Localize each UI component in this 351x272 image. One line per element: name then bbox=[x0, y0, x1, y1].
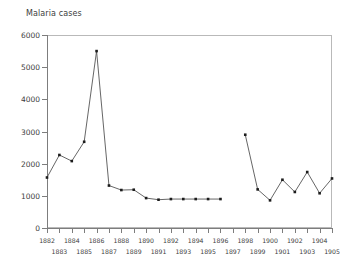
data-point bbox=[269, 199, 272, 202]
data-point bbox=[256, 188, 259, 191]
y-tick bbox=[42, 164, 47, 165]
y-tick bbox=[42, 132, 47, 133]
data-point bbox=[318, 192, 321, 195]
data-point bbox=[281, 178, 284, 181]
x-tick bbox=[258, 228, 259, 233]
x-tick-label: 1891 bbox=[151, 248, 167, 255]
data-point bbox=[294, 191, 297, 194]
data-point bbox=[70, 160, 73, 163]
x-tick bbox=[47, 228, 48, 233]
x-tick-label: 1884 bbox=[64, 237, 80, 244]
x-tick-label: 1905 bbox=[324, 248, 340, 255]
x-tick-label: 1894 bbox=[188, 237, 204, 244]
x-tick-label: 1895 bbox=[200, 248, 216, 255]
x-tick bbox=[245, 228, 246, 233]
x-tick bbox=[233, 228, 234, 233]
x-tick-label: 1902 bbox=[287, 237, 303, 244]
x-tick bbox=[97, 228, 98, 233]
x-tick-label: 1893 bbox=[175, 248, 191, 255]
y-tick bbox=[42, 67, 47, 68]
x-tick-label: 1903 bbox=[299, 248, 315, 255]
data-point bbox=[157, 198, 160, 201]
x-tick bbox=[146, 228, 147, 233]
data-point bbox=[306, 171, 309, 174]
x-tick bbox=[159, 228, 160, 233]
x-tick-label: 1904 bbox=[312, 237, 328, 244]
data-point bbox=[331, 177, 334, 180]
data-point bbox=[58, 154, 61, 157]
x-tick-label: 1901 bbox=[275, 248, 291, 255]
x-tick bbox=[183, 228, 184, 233]
x-tick-label: 1892 bbox=[163, 237, 179, 244]
data-point bbox=[132, 188, 135, 191]
x-tick-label: 1897 bbox=[225, 248, 241, 255]
x-tick-label: 1887 bbox=[101, 248, 117, 255]
x-tick-label: 1888 bbox=[113, 237, 129, 244]
x-tick-label: 1882 bbox=[39, 237, 55, 244]
data-point bbox=[83, 140, 86, 143]
x-tick bbox=[320, 228, 321, 233]
x-tick-label: 1886 bbox=[89, 237, 105, 244]
x-tick-label: 1896 bbox=[213, 237, 229, 244]
x-tick bbox=[220, 228, 221, 233]
x-tick bbox=[196, 228, 197, 233]
data-point bbox=[145, 197, 148, 200]
x-tick-label: 1900 bbox=[262, 237, 278, 244]
x-tick-label: 1899 bbox=[250, 248, 266, 255]
data-point bbox=[95, 50, 98, 53]
x-tick-label: 1890 bbox=[138, 237, 154, 244]
x-tick bbox=[332, 228, 333, 233]
series-line bbox=[47, 51, 220, 200]
data-point bbox=[219, 198, 222, 201]
data-point bbox=[244, 133, 247, 136]
x-tick-label: 1883 bbox=[52, 248, 68, 255]
x-tick bbox=[282, 228, 283, 233]
data-point bbox=[46, 176, 49, 179]
x-tick-label: 1885 bbox=[76, 248, 92, 255]
x-tick bbox=[295, 228, 296, 233]
x-tick bbox=[270, 228, 271, 233]
data-point bbox=[194, 198, 197, 201]
x-tick bbox=[109, 228, 110, 233]
x-tick bbox=[171, 228, 172, 233]
y-tick bbox=[42, 196, 47, 197]
x-tick bbox=[121, 228, 122, 233]
data-point bbox=[120, 189, 123, 192]
x-tick bbox=[72, 228, 73, 233]
x-tick bbox=[134, 228, 135, 233]
x-tick bbox=[59, 228, 60, 233]
data-point bbox=[108, 184, 111, 187]
data-point bbox=[182, 198, 185, 201]
data-point bbox=[170, 198, 173, 201]
x-tick bbox=[84, 228, 85, 233]
x-tick bbox=[307, 228, 308, 233]
y-tick bbox=[42, 99, 47, 100]
x-tick bbox=[208, 228, 209, 233]
malaria-cases-chart: Malaria cases 0100020003000400050006000 … bbox=[0, 0, 351, 272]
data-series-layer bbox=[0, 0, 351, 272]
x-tick-label: 1889 bbox=[126, 248, 142, 255]
data-point bbox=[207, 198, 210, 201]
y-tick bbox=[42, 35, 47, 36]
x-tick-label: 1898 bbox=[237, 237, 253, 244]
